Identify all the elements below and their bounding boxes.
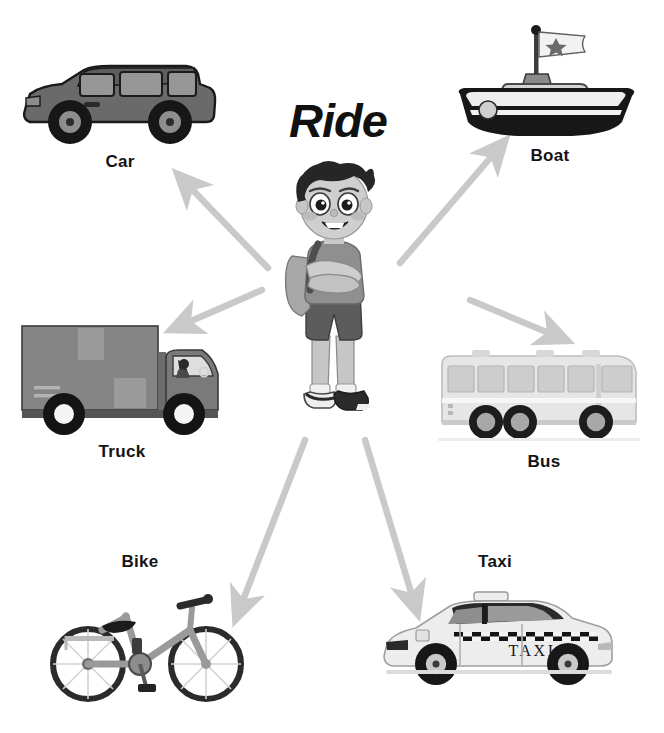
bus-icon <box>432 338 644 442</box>
bus-label: Bus <box>494 452 594 472</box>
arrow-to-car <box>186 183 268 268</box>
boat-icon <box>452 22 642 142</box>
boy-icon <box>262 158 402 423</box>
truck-illustration[interactable] <box>16 316 228 438</box>
truck-icon <box>16 316 228 438</box>
taxi-label: Taxi <box>445 552 545 572</box>
bus-illustration[interactable] <box>432 338 644 442</box>
poster-canvas: Ride Car <box>0 0 664 733</box>
car-label: Car <box>60 152 180 172</box>
page-title: Ride <box>268 93 408 148</box>
arrow-to-boat <box>400 150 497 263</box>
truck-label: Truck <box>62 442 182 462</box>
taxi-illustration[interactable]: TAXI <box>372 586 620 698</box>
boat-illustration[interactable] <box>452 22 642 142</box>
bike-label: Bike <box>90 552 190 572</box>
taxi-checker-stripe <box>454 632 598 641</box>
arrow-to-taxi <box>365 440 414 602</box>
bike-icon <box>40 578 246 704</box>
boy-illustration[interactable] <box>262 158 402 423</box>
bike-illustration[interactable] <box>40 578 246 704</box>
car-illustration[interactable] <box>18 48 220 148</box>
boat-label: Boat <box>500 146 600 166</box>
car-icon <box>18 48 220 148</box>
arrow-to-bike <box>240 440 305 608</box>
taxi-roof-sign <box>474 592 508 601</box>
taxi-icon: TAXI <box>372 586 620 698</box>
arrow-to-bus <box>470 300 556 336</box>
